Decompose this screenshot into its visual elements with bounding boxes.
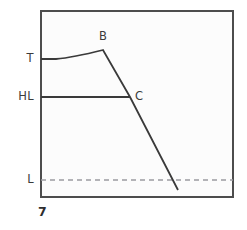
plot-area-background bbox=[41, 11, 233, 197]
axis-label-l: L bbox=[2, 174, 34, 186]
axis-label-hl: HL bbox=[2, 91, 34, 103]
chart-canvas bbox=[0, 0, 247, 230]
point-label-c: C bbox=[135, 91, 143, 103]
figure-diagram: T HL L B C 7 bbox=[0, 0, 247, 230]
figure-number: 7 bbox=[38, 206, 47, 219]
point-label-b: B bbox=[99, 31, 107, 43]
axis-label-t: T bbox=[2, 53, 34, 65]
